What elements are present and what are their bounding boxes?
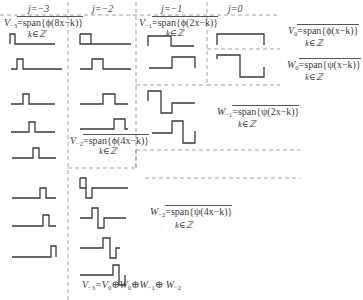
phi-8x-k6 [12,215,56,226]
label-w-minus1-k: k∈ℤ [238,119,256,129]
eq-v-sub: −3 [88,284,95,291]
eq-w-1-sub: −1 [148,284,155,291]
psi-4x-k0a [80,178,86,188]
label-v-minus1-rhs: =span{ϕ(2x−k)} [152,16,218,28]
label-v-minus1-sub: −1 [145,22,152,29]
label-v-minus1-k: k∈ℤ [166,28,184,38]
label-w-0: W0=span{ψ(x−k)} [287,60,361,73]
phi-8x-k2 [11,94,55,104]
psi-4x-k0 [80,178,128,198]
phi-8x-k1 [11,59,62,69]
phi-4x-k2 [80,94,128,104]
label-w-minus2-rhs: =span{ψ(4x−k)} [165,205,232,217]
psi-2x-k0 [148,91,195,113]
eq-w-2: ⊕ W [155,279,174,290]
label-v-minus2-k: k∈ℤ [99,146,117,156]
waveforms [10,34,264,285]
eq-w0: ⊕W [111,279,128,290]
label-v-minus2-rhs: =span{ϕ(4x−k)} [83,134,149,146]
label-w-minus1: W−1=span{ψ(2x−k)} [217,107,299,120]
phi-x [217,34,264,45]
eq-v0: =V [95,279,108,290]
label-w-0-rhs: =span{ψ(x−k)} [299,58,361,70]
phi-4x-k1 [80,59,131,69]
dashed-grid [0,2,300,300]
psi-2x-k1 [152,121,195,143]
label-w-minus2-k: k∈ℤ [175,220,193,230]
header-j-minus3: j=−3 [28,3,49,14]
psi-4x-k1 [80,208,126,228]
phi-8x-k3 [11,122,55,132]
label-w-minus1-rhs: =span{ψ(2x−k)} [232,105,299,117]
label-v-0-k: k∈ℤ [305,38,323,48]
label-v-0: V0=span{ϕ(x−k)} [288,26,359,39]
phi-2x-k1 [149,57,195,68]
label-v-minus3-sub: −3 [10,22,17,29]
eq-w-1: ⊕W [131,279,148,290]
label-v-0-rhs: =span{ϕ(x−k)} [297,24,358,36]
header-j-minus2: j=−2 [92,3,113,14]
phi-8x-k7 [12,246,56,257]
phi-8x-k5 [12,188,56,198]
label-w-minus2: W−2=span{ψ(4x−k)} [150,207,232,220]
phi-4x-k0 [80,34,131,44]
label-w-0-k: k∈ℤ [305,72,323,82]
eq-w-2-sub: −2 [174,284,181,291]
label-v-minus3-rhs: =span{ϕ(8x−k)} [17,16,83,28]
phi-8x-k4 [12,148,56,158]
header-j-minus1: j=−1 [161,3,182,14]
label-v-minus3-k: k∈ℤ [28,29,46,39]
psi-4x-k2 [80,238,120,258]
header-j-0: j=0 [228,3,243,14]
psi-x [217,55,264,77]
phi-4x-k0-top [80,34,91,44]
phi-4x-k3 [80,119,128,129]
decomposition-equation: V−3=V0⊕W0⊕W−1⊕ W−2 [82,280,181,293]
label-v-minus2-sub: −2 [76,140,83,147]
